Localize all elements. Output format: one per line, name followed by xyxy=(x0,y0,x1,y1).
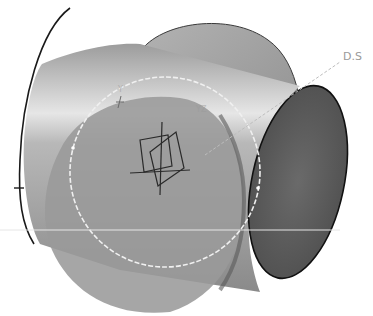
plane-label: YZ xyxy=(195,105,207,114)
axis-y-label: Y xyxy=(117,85,123,94)
cad-viewport[interactable]: D.S Y YZ xyxy=(0,0,373,316)
cad-model-drawing: D.S Y YZ xyxy=(0,0,373,316)
disc-front xyxy=(45,97,244,313)
direction-label: D.S xyxy=(343,50,362,63)
